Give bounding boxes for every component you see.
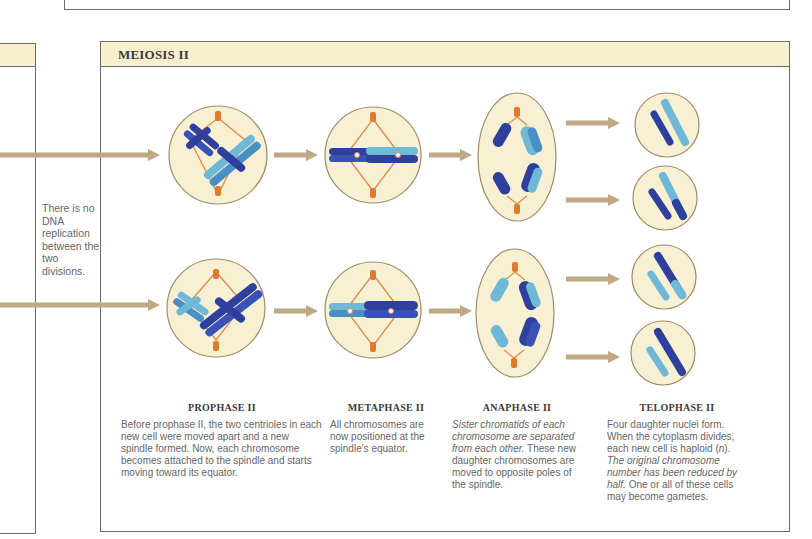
metaphase-ii-title: METAPHASE II xyxy=(330,402,442,413)
telophase-ii-text-2: ). xyxy=(724,443,730,454)
telophase-cell-3 xyxy=(632,245,696,309)
arrow-prophase-to-metaphase-top xyxy=(274,149,318,161)
arrow-anaphase-to-telophase-2 xyxy=(566,194,620,206)
arrow-anaphase-to-telophase-1 xyxy=(566,117,620,129)
prophase-cell-bottom xyxy=(167,259,265,357)
anaphase-ii-caption: ANAPHASE II Sister chromatids of each ch… xyxy=(452,402,582,491)
prophase-cell-top xyxy=(169,106,267,204)
telophase-cell-2 xyxy=(633,166,697,230)
metaphase-cell-bottom xyxy=(325,262,421,358)
metaphase-ii-description: All chromosomes are now positioned at th… xyxy=(330,419,442,455)
arrow-anaphase-to-telophase-4 xyxy=(566,351,620,363)
telophase-ii-description: Four daughter nuclei form. When the cyto… xyxy=(607,419,747,503)
telophase-ii-text-1: Four daughter nuclei form. When the cyto… xyxy=(607,419,734,454)
arrow-metaphase-to-anaphase-top xyxy=(429,149,472,161)
incoming-arrow-top xyxy=(0,149,160,161)
metaphase-cell-top xyxy=(325,107,421,203)
telophase-ii-text-3: One or all of these cells may become gam… xyxy=(607,479,733,502)
anaphase-cell-bottom xyxy=(476,249,554,377)
arrow-prophase-to-metaphase-bottom xyxy=(274,305,318,317)
telophase-cell-4 xyxy=(631,321,695,385)
anaphase-ii-title: ANAPHASE II xyxy=(452,402,582,413)
arrow-metaphase-to-anaphase-bottom xyxy=(429,305,472,317)
anaphase-cell-top xyxy=(478,93,556,221)
telophase-ii-title: TELOPHASE II xyxy=(607,402,747,413)
arrow-anaphase-to-telophase-3 xyxy=(566,273,620,285)
metaphase-ii-caption: METAPHASE II All chromosomes are now pos… xyxy=(330,402,442,455)
telophase-cell-1 xyxy=(635,93,699,157)
telophase-ii-caption: TELOPHASE II Four daughter nuclei form. … xyxy=(607,402,747,503)
anaphase-ii-description: Sister chromatids of each chromosome are… xyxy=(452,419,582,491)
incoming-arrow-bottom xyxy=(0,299,160,311)
prophase-ii-description: Before prophase II, the two centrioles i… xyxy=(121,419,323,479)
prophase-ii-title: PROPHASE II xyxy=(121,402,323,413)
prophase-ii-caption: PROPHASE II Before prophase II, the two … xyxy=(121,402,323,479)
